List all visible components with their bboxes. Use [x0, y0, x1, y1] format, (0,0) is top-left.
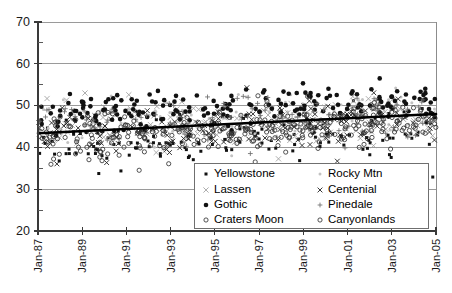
- data-point: [127, 111, 132, 116]
- data-point: [262, 88, 267, 93]
- data-point: [62, 98, 65, 101]
- data-point: [128, 154, 131, 157]
- data-point: [216, 116, 221, 121]
- legend-item-label: Canyonlands: [328, 213, 395, 225]
- data-point: [423, 87, 428, 92]
- data-point: [100, 159, 104, 163]
- data-point: [131, 107, 136, 112]
- data-point: [260, 128, 263, 131]
- data-point: [237, 93, 240, 96]
- data-point: [138, 122, 143, 127]
- x-tick-label: Jan-97: [253, 239, 265, 273]
- data-point: [185, 116, 189, 120]
- chart-legend: YellowstoneLassenGothicCraters MoonRocky…: [194, 163, 428, 228]
- data-point: [63, 135, 67, 139]
- data-point: [190, 113, 193, 116]
- y-tick-label: 40: [16, 140, 30, 154]
- data-point: [291, 101, 296, 106]
- data-point: [221, 106, 226, 111]
- data-point: [363, 122, 367, 126]
- data-point: [242, 117, 245, 120]
- data-point: [276, 156, 281, 161]
- data-point: [334, 93, 339, 98]
- data-point: [119, 98, 124, 103]
- data-point: [255, 101, 260, 106]
- data-point: [80, 99, 85, 104]
- data-point: [366, 96, 371, 101]
- filled-circle-icon: [204, 203, 209, 208]
- data-point: [104, 100, 109, 105]
- data-point: [202, 113, 207, 118]
- legend-item-canyonlands[interactable]: Canyonlands: [318, 213, 395, 225]
- data-point: [410, 101, 413, 104]
- data-point: [216, 144, 220, 148]
- data-point: [110, 117, 115, 122]
- data-point: [326, 86, 331, 91]
- legend-item-rocky-mtn[interactable]: Rocky Mtn: [319, 167, 383, 179]
- legend-item-yellowstone[interactable]: Yellowstone: [205, 167, 275, 179]
- data-point: [105, 157, 108, 160]
- data-point: [170, 133, 174, 137]
- data-point: [402, 99, 407, 104]
- data-point: [284, 150, 288, 154]
- data-point: [174, 94, 179, 99]
- data-point: [281, 89, 286, 94]
- data-point: [407, 128, 411, 132]
- data-point: [68, 112, 73, 117]
- data-point: [111, 96, 116, 101]
- x-tick-label: Jan-05: [430, 239, 442, 273]
- data-point: [135, 98, 140, 103]
- data-point: [154, 104, 159, 109]
- data-point: [101, 135, 106, 140]
- y-tick-label: 60: [16, 57, 30, 71]
- data-point: [97, 122, 102, 127]
- data-point: [349, 91, 354, 96]
- data-point: [351, 120, 354, 123]
- data-point: [224, 146, 227, 149]
- data-point: [328, 120, 332, 124]
- data-point: [149, 143, 153, 147]
- data-point: [114, 149, 119, 154]
- data-point: [406, 109, 411, 114]
- data-point: [162, 98, 167, 103]
- data-point: [53, 153, 56, 156]
- data-point: [76, 126, 81, 131]
- data-point: [279, 101, 284, 106]
- x-tick-label: Jan-93: [165, 239, 177, 273]
- data-point: [187, 105, 192, 110]
- data-point: [307, 98, 312, 103]
- data-point: [161, 103, 166, 108]
- data-point: [361, 98, 364, 101]
- data-point: [267, 148, 270, 151]
- legend-item-label: Craters Moon: [214, 213, 284, 225]
- data-point: [87, 158, 91, 162]
- data-point: [286, 91, 291, 96]
- x-tick-label: Jan-91: [120, 239, 132, 273]
- data-point: [115, 93, 120, 98]
- data-point: [387, 98, 390, 101]
- data-point: [251, 112, 256, 117]
- data-point: [412, 96, 417, 101]
- data-point: [187, 156, 190, 159]
- data-point: [298, 159, 301, 162]
- data-point: [88, 104, 93, 109]
- data-point: [326, 112, 331, 117]
- data-point: [191, 106, 196, 111]
- legend-item-label: Rocky Mtn: [328, 167, 382, 179]
- x-tick-label: Jan-87: [32, 239, 44, 273]
- data-point: [390, 110, 394, 114]
- data-point: [137, 109, 142, 114]
- data-point: [361, 148, 364, 151]
- data-point: [181, 97, 186, 102]
- x-tick-label: Jan-95: [209, 239, 221, 273]
- data-point: [327, 141, 330, 144]
- legend-item-craters-moon[interactable]: Craters Moon: [204, 213, 284, 225]
- data-point: [38, 152, 41, 155]
- data-point: [279, 110, 284, 115]
- data-point: [235, 111, 238, 114]
- data-point: [114, 104, 119, 109]
- data-point: [368, 153, 371, 156]
- data-point: [47, 127, 50, 130]
- data-point: [357, 124, 361, 128]
- y-tick-label: 30: [16, 182, 30, 196]
